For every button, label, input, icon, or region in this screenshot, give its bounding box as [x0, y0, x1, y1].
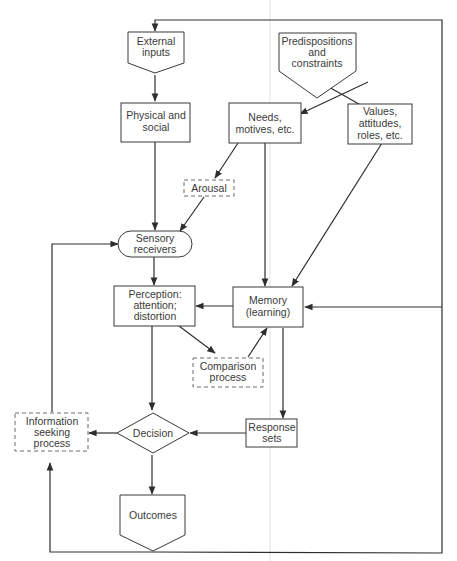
- response-sets-label-2: sets: [262, 432, 281, 444]
- edge-comparison-memory: [248, 328, 267, 357]
- physical-social-label-1: Physical and: [126, 109, 186, 121]
- physical-social-label-2: social: [143, 121, 170, 133]
- external-inputs-label-2: inputs: [142, 46, 170, 58]
- node-values-attitudes: Values, attitudes, roles, etc.: [348, 104, 412, 144]
- memory-label-1: Memory: [249, 294, 288, 306]
- node-arousal: Arousal: [184, 180, 234, 196]
- node-decision: Decision: [117, 413, 189, 453]
- sensory-label-2: receivers: [134, 243, 177, 255]
- values-label-3: roles, etc.: [357, 129, 403, 141]
- node-info-seeking: Information seeking process: [15, 413, 88, 451]
- node-outcomes: Outcomes: [120, 495, 185, 551]
- node-external-inputs: External inputs: [128, 32, 184, 73]
- memory-label-2: (learning): [246, 306, 290, 318]
- node-physical-social: Physical and social: [121, 103, 190, 142]
- info-seeking-label-3: process: [34, 437, 71, 449]
- node-needs-motives: Needs, motives, etc.: [229, 103, 301, 143]
- node-comparison: Comparison process: [193, 358, 263, 387]
- needs-label-1: Needs,: [248, 111, 281, 123]
- node-response-sets: Response sets: [246, 419, 297, 447]
- edge-arousal-sensory: [180, 197, 204, 231]
- node-predispositions: Predispositions and constraints: [279, 33, 356, 98]
- edge-perception-comparison: [179, 326, 215, 353]
- perception-label-3: distortion: [134, 310, 177, 322]
- flow-diagram: External inputs Predispositions and cons…: [0, 0, 457, 561]
- values-label-2: attitudes,: [359, 117, 402, 129]
- predispositions-label-3: constraints: [292, 57, 343, 69]
- node-memory: Memory (learning): [233, 287, 303, 327]
- node-perception: Perception: attention; distortion: [114, 286, 195, 326]
- needs-label-2: motives, etc.: [236, 123, 295, 135]
- outcomes-label: Outcomes: [129, 509, 177, 521]
- values-label-1: Values,: [363, 105, 397, 117]
- decision-label: Decision: [133, 427, 173, 439]
- arousal-label: Arousal: [191, 182, 227, 194]
- edge-values-memory: [292, 143, 382, 286]
- edge-needs-arousal: [215, 143, 238, 178]
- edge-info-sensory: [52, 244, 118, 412]
- node-sensory-receivers: Sensory receivers: [118, 231, 192, 257]
- comparison-label-2: process: [210, 371, 247, 383]
